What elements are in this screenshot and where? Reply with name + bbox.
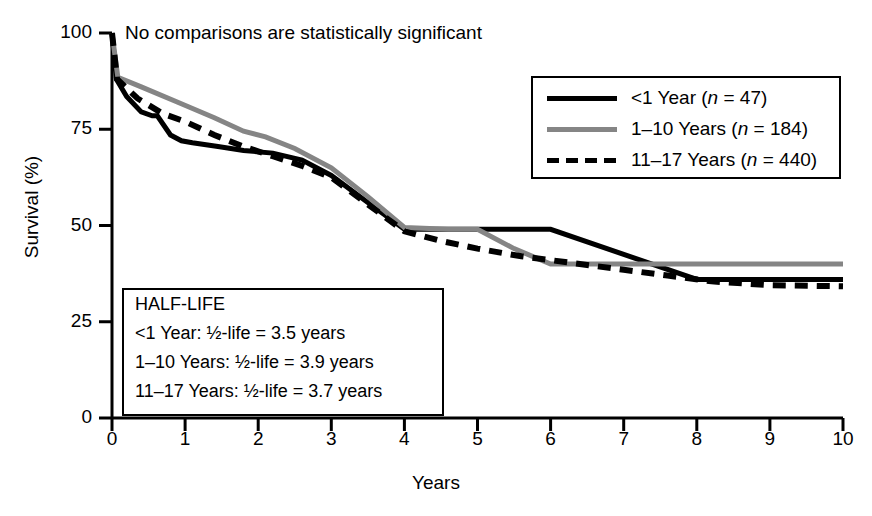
x-tick-label: 6 [531, 428, 571, 450]
legend-label-lt1year: <1 Year (n = 47) [631, 87, 767, 109]
y-tick-label: 25 [20, 310, 92, 332]
x-tick-label: 1 [165, 428, 205, 450]
x-tick-label: 5 [458, 428, 498, 450]
x-tick-label: 7 [604, 428, 644, 450]
y-tick-label: 75 [20, 117, 92, 139]
halflife-title: HALF-LIFE [135, 294, 225, 315]
halflife-row-lt1year: <1 Year: ½-life = 3.5 years [135, 323, 345, 344]
x-tick-label: 3 [311, 428, 351, 450]
legend-item-1to10years: 1–10 Years (n = 184) [545, 114, 808, 144]
legend-swatch-solid-black-icon [545, 83, 619, 113]
figure-root: Survival (%) Years No comparisons are st… [0, 0, 872, 516]
x-tick-label: 4 [384, 428, 424, 450]
y-tick-label: 50 [20, 214, 92, 236]
x-tick-label: 2 [238, 428, 278, 450]
y-tick-label: 0 [20, 406, 92, 428]
legend: <1 Year (n = 47) 1–10 Years (n = 184) 11… [531, 76, 841, 179]
legend-swatch-solid-gray-icon [545, 114, 619, 144]
legend-swatch-dashed-black-icon [545, 145, 619, 175]
legend-label-11to17years: 11–17 Years (n = 440) [631, 149, 817, 171]
halflife-annotation-box: HALF-LIFE <1 Year: ½-life = 3.5 years 1–… [122, 288, 444, 416]
y-tick-label: 100 [20, 21, 92, 43]
x-axis-label: Years [0, 472, 872, 494]
x-tick-label: 10 [823, 428, 863, 450]
x-tick-label: 0 [92, 428, 132, 450]
significance-note: No comparisons are statistically signifi… [125, 22, 482, 44]
x-tick-label: 9 [750, 428, 790, 450]
y-axis-label: Survival (%) [21, 127, 43, 287]
halflife-row-11to17years: 11–17 Years: ½-life = 3.7 years [135, 381, 382, 402]
x-tick-label: 8 [677, 428, 717, 450]
legend-label-1to10years: 1–10 Years (n = 184) [631, 118, 808, 140]
legend-item-11to17years: 11–17 Years (n = 440) [545, 145, 817, 175]
legend-item-lt1year: <1 Year (n = 47) [545, 83, 767, 113]
halflife-row-1to10years: 1–10 Years: ½-life = 3.9 years [135, 352, 374, 373]
